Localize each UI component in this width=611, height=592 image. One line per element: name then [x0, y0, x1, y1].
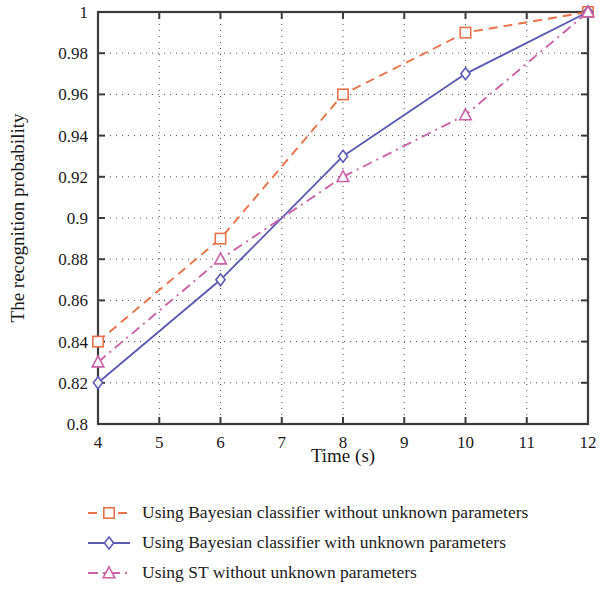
y-tick-label: 0.86	[58, 291, 88, 310]
data-point-marker-legend-square	[104, 508, 114, 518]
data-point-marker-triangle	[337, 171, 349, 182]
data-point-marker-triangle	[460, 109, 472, 120]
legend-item: Using Bayesian classifier with unknown p…	[88, 532, 506, 552]
data-point-marker-square	[460, 27, 470, 37]
legend-item: Using ST without unknown parameters	[88, 562, 417, 582]
y-tick-label: 0.82	[58, 374, 88, 393]
y-tick-label: 0.96	[58, 85, 88, 104]
x-tick-label: 5	[155, 433, 164, 452]
y-tick-label: 0.92	[58, 168, 88, 187]
x-tick-label: 11	[519, 433, 535, 452]
data-series-layer	[92, 6, 594, 389]
y-axis-tick-labels: 0.80.820.840.860.880.90.920.940.960.981	[58, 3, 88, 434]
data-point-marker-square	[93, 336, 103, 346]
data-series	[93, 6, 592, 389]
y-tick-label: 0.94	[58, 127, 88, 146]
series-line	[98, 12, 588, 362]
legend-label: Using Bayesian classifier without unknow…	[142, 502, 529, 522]
data-point-marker-diamond	[461, 68, 470, 80]
data-point-marker-square	[215, 233, 225, 243]
y-tick-label: 0.9	[67, 209, 88, 228]
x-tick-label: 7	[278, 433, 287, 452]
y-tick-label: 1	[80, 3, 89, 22]
y-axis-title: The recognition probability	[7, 113, 28, 322]
chart-figure: 0.80.820.840.860.880.90.920.940.960.981 …	[0, 0, 611, 592]
x-axis-title: Time (s)	[311, 445, 375, 467]
legend-item: Using Bayesian classifier without unknow…	[88, 502, 529, 522]
x-tick-label: 9	[400, 433, 409, 452]
data-point-marker-square	[338, 89, 348, 99]
y-tick-label: 0.98	[58, 44, 88, 63]
legend-label: Using Bayesian classifier with unknown p…	[142, 532, 506, 552]
data-point-marker-triangle	[215, 253, 227, 264]
series-line	[98, 12, 588, 383]
y-tick-label: 0.88	[58, 250, 88, 269]
x-tick-label: 6	[216, 433, 225, 452]
chart-legend: Using Bayesian classifier without unknow…	[88, 502, 529, 582]
data-point-marker-diamond	[93, 377, 102, 389]
recognition-probability-line-chart: 0.80.820.840.860.880.90.920.940.960.981 …	[0, 0, 611, 592]
x-tick-label: 12	[580, 433, 597, 452]
data-point-marker-legend-diamond	[104, 537, 113, 549]
y-tick-label: 0.8	[67, 415, 88, 434]
x-tick-label: 10	[457, 433, 474, 452]
y-tick-label: 0.84	[58, 333, 88, 352]
legend-label: Using ST without unknown parameters	[142, 562, 417, 582]
x-tick-label: 4	[94, 433, 103, 452]
